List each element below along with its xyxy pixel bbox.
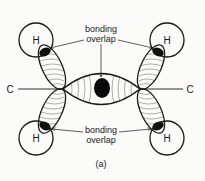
carbon-pointer-right: C [141, 84, 194, 95]
carbon-label-left: C [6, 84, 13, 95]
annotation-top-bonding-overlap: bonding overlap [50, 24, 153, 77]
annotation-bottom-bonding-overlap: bonding overlap [52, 125, 151, 145]
annotation-top-line2: overlap [86, 34, 116, 44]
annotation-bottom-line2: overlap [86, 135, 116, 145]
annotation-top-line1: bonding [85, 24, 117, 34]
arrow-to-lower-left-overlap [52, 129, 83, 132]
h-label-top-right: H [163, 35, 170, 46]
h-label-bottom-right: H [163, 133, 170, 144]
overlap-blob-center [94, 78, 110, 98]
orbital-lobe-upper-left [33, 41, 71, 93]
arrow-to-lower-right-overlap [119, 129, 151, 132]
h-label-top-left: H [32, 35, 39, 46]
orbital-lobe-upper-right [132, 41, 170, 93]
annotation-bottom-line1: bonding [85, 125, 117, 135]
figure-caption: (a) [96, 159, 107, 169]
arrow-to-upper-left-overlap [50, 40, 84, 48]
carbon-carbon-sigma-bond [63, 72, 140, 106]
carbon-label-right: C [186, 84, 193, 95]
arrow-to-upper-right-overlap [118, 40, 153, 48]
orbital-overlap-diagram: H H H H [0, 0, 205, 181]
h-label-bottom-left: H [32, 133, 39, 144]
